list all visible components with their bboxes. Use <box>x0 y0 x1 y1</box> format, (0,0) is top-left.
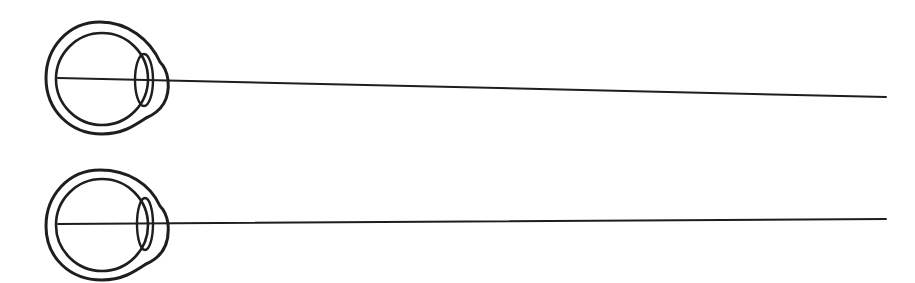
eye-diagram-canvas <box>0 0 915 283</box>
eye-top-sight-line <box>58 78 886 97</box>
eye-top <box>46 22 886 134</box>
eye-bottom-retina-circle <box>56 179 148 271</box>
eye-bottom-sight-line <box>58 219 886 224</box>
eye-bottom-sclera-outline <box>46 170 168 280</box>
eye-bottom <box>46 170 886 280</box>
